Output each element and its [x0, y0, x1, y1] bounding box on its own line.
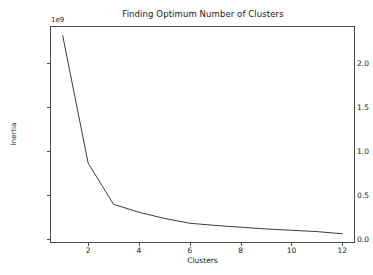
chart-data-layer	[0, 0, 373, 275]
inertia-line-series	[63, 36, 343, 234]
chart-figure: Finding Optimum Number of Clusters 1e9 I…	[0, 0, 373, 275]
